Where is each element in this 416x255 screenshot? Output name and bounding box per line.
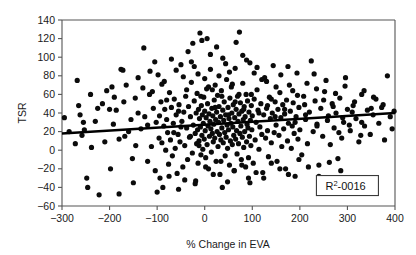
data-point bbox=[220, 185, 225, 190]
data-point bbox=[224, 77, 229, 82]
data-point bbox=[156, 136, 161, 141]
data-point bbox=[238, 123, 243, 128]
data-point bbox=[291, 100, 296, 105]
data-point bbox=[208, 52, 213, 57]
y-tick-label: 20 bbox=[43, 125, 55, 137]
data-point bbox=[155, 72, 160, 77]
data-point bbox=[149, 144, 154, 149]
y-tick-label: 60 bbox=[43, 88, 55, 100]
data-point bbox=[260, 170, 265, 175]
data-point bbox=[193, 181, 198, 186]
data-point bbox=[202, 136, 207, 141]
data-point bbox=[356, 139, 361, 144]
data-point bbox=[282, 107, 287, 112]
data-point bbox=[295, 93, 300, 98]
data-point bbox=[320, 134, 325, 139]
data-point bbox=[305, 141, 310, 146]
data-point bbox=[153, 168, 158, 173]
data-point bbox=[244, 139, 249, 144]
data-point bbox=[332, 125, 337, 130]
data-point bbox=[189, 59, 194, 64]
data-point bbox=[264, 79, 269, 84]
data-point bbox=[233, 136, 238, 141]
data-point bbox=[225, 146, 230, 151]
data-point bbox=[212, 97, 217, 102]
data-point bbox=[230, 142, 235, 147]
data-point bbox=[111, 122, 116, 127]
data-point bbox=[273, 114, 278, 119]
data-point bbox=[192, 98, 197, 103]
data-point bbox=[206, 84, 211, 89]
data-point bbox=[136, 75, 141, 80]
data-point bbox=[88, 92, 93, 97]
data-point bbox=[213, 83, 218, 88]
data-point bbox=[253, 170, 258, 175]
data-point bbox=[158, 99, 163, 104]
data-point bbox=[266, 154, 271, 159]
data-point bbox=[210, 131, 215, 136]
data-point bbox=[286, 172, 291, 177]
x-tick-label: 100 bbox=[244, 212, 262, 224]
data-point bbox=[382, 137, 387, 142]
data-point bbox=[227, 162, 232, 167]
data-point bbox=[304, 81, 309, 86]
data-point bbox=[348, 128, 353, 133]
x-tick-label: −200 bbox=[98, 212, 122, 224]
data-point bbox=[309, 58, 314, 63]
data-point bbox=[199, 38, 204, 43]
data-point bbox=[230, 82, 235, 87]
y-tick-label: 100 bbox=[37, 51, 55, 63]
data-point bbox=[112, 95, 117, 100]
data-point bbox=[252, 96, 257, 101]
data-point bbox=[97, 192, 102, 197]
data-point bbox=[295, 136, 300, 141]
data-point bbox=[166, 162, 171, 167]
data-point bbox=[157, 176, 162, 181]
data-point bbox=[145, 159, 150, 164]
data-point bbox=[239, 162, 244, 167]
data-point bbox=[342, 83, 347, 88]
data-point bbox=[233, 99, 238, 104]
data-point bbox=[293, 174, 298, 179]
data-point bbox=[140, 85, 145, 90]
data-point bbox=[237, 29, 242, 34]
data-point bbox=[204, 142, 209, 147]
data-point bbox=[281, 126, 286, 131]
data-point bbox=[168, 137, 173, 142]
data-point bbox=[150, 89, 155, 94]
data-point bbox=[184, 87, 189, 92]
y-tick-label: 120 bbox=[37, 32, 55, 44]
data-point bbox=[109, 84, 114, 89]
data-point bbox=[290, 88, 295, 93]
data-point bbox=[190, 150, 195, 155]
data-point bbox=[223, 153, 228, 158]
data-point bbox=[337, 96, 342, 101]
data-point bbox=[182, 177, 187, 182]
data-point bbox=[277, 90, 282, 95]
data-point bbox=[197, 30, 202, 35]
data-point bbox=[274, 159, 279, 164]
data-point bbox=[223, 61, 228, 66]
data-point bbox=[163, 148, 168, 153]
data-point bbox=[182, 143, 187, 148]
data-point bbox=[276, 133, 281, 138]
data-point bbox=[244, 57, 249, 62]
data-point bbox=[292, 131, 297, 136]
data-point bbox=[328, 142, 333, 147]
data-point bbox=[136, 110, 141, 115]
data-point bbox=[258, 101, 263, 106]
x-tick-label: −100 bbox=[145, 212, 169, 224]
data-point bbox=[196, 138, 201, 143]
data-point bbox=[234, 107, 239, 112]
data-point bbox=[273, 122, 278, 127]
y-tick-label: 140 bbox=[37, 14, 55, 26]
data-point bbox=[246, 176, 251, 181]
data-point bbox=[142, 114, 147, 119]
data-point bbox=[284, 97, 289, 102]
data-point bbox=[296, 105, 301, 110]
data-point bbox=[239, 157, 244, 162]
data-point bbox=[159, 82, 164, 87]
data-point bbox=[124, 83, 129, 88]
data-point bbox=[359, 120, 364, 125]
data-point bbox=[213, 105, 218, 110]
